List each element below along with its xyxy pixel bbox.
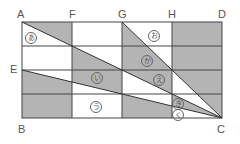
vertex-label-A: A bbox=[17, 9, 24, 20]
region-label-a: あ bbox=[25, 32, 37, 44]
region-label-ka: か bbox=[141, 55, 153, 67]
vertex-label-D: D bbox=[218, 9, 226, 20]
vertex-label-G: G bbox=[118, 9, 127, 20]
region-label-ku: く bbox=[172, 109, 184, 121]
vertex-label-E: E bbox=[10, 64, 17, 75]
vertex-label-F: F bbox=[69, 9, 76, 20]
region-label-e: え bbox=[153, 74, 165, 86]
vertex-label-B: B bbox=[18, 124, 25, 135]
vertex-label-C: C bbox=[217, 124, 225, 135]
region-label-o: お bbox=[148, 30, 160, 42]
region-label-i: い bbox=[91, 72, 103, 84]
region-label-u: う bbox=[90, 101, 102, 113]
geometry-figure bbox=[0, 0, 240, 144]
shade-region-bottom-mid bbox=[122, 94, 172, 118]
vertex-label-H: H bbox=[168, 9, 176, 20]
